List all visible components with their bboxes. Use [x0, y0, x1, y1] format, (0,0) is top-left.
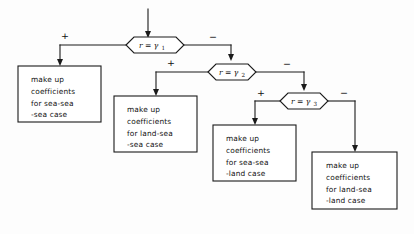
- decision-1-positive-edge: +: [57, 30, 126, 66]
- process-3-line-2: coefficients: [226, 146, 270, 155]
- decision-3-negative-edge: −: [328, 87, 358, 152]
- decision-2-positive-edge: +: [153, 57, 208, 96]
- flowchart-diagram: r = γ 1 + − r = γ 2 +: [0, 0, 414, 234]
- process-1-line-1: make up: [31, 75, 64, 84]
- process-1-line-3: for sea-sea: [31, 99, 74, 108]
- decision-3-positive-label: +: [257, 87, 265, 98]
- process-3-line-3: for sea-sea: [226, 158, 269, 167]
- process-4-line-3: for land-sea: [326, 185, 372, 194]
- decision-1-negative-edge: −: [184, 31, 234, 61]
- process-3-line-4: -land case: [226, 169, 266, 178]
- decision-1-label: r = γ: [139, 41, 159, 50]
- decision-3-positive-edge: +: [252, 87, 280, 125]
- decision-2-label: r = γ: [219, 68, 239, 77]
- process-box-1[interactable]: make up coefficients for sea-sea -sea ca…: [18, 66, 101, 122]
- decision-1-positive-label: +: [61, 30, 69, 41]
- decision-1-negative-label: −: [209, 31, 217, 42]
- entry-arrow: [145, 9, 151, 38]
- decision-2-positive-label: +: [167, 57, 175, 68]
- decision-3-label: r = γ: [291, 97, 311, 106]
- decision-node-2[interactable]: r = γ 2: [208, 64, 256, 80]
- process-2-line-3: for land-sea: [127, 129, 173, 138]
- decision-node-1[interactable]: r = γ 1: [126, 37, 184, 53]
- decision-1-subscript: 1: [162, 45, 166, 51]
- process-3-line-1: make up: [226, 134, 259, 143]
- process-4-line-2: coefficients: [326, 173, 370, 182]
- decision-node-3[interactable]: r = γ 3: [280, 93, 328, 109]
- process-4-line-4: -land case: [326, 196, 366, 205]
- process-1-line-4: -sea case: [31, 110, 68, 119]
- process-box-2[interactable]: make up coefficients for land-sea -sea c…: [114, 96, 197, 152]
- process-box-3[interactable]: make up coefficients for sea-sea -land c…: [213, 125, 296, 181]
- decision-2-negative-label: −: [283, 58, 291, 69]
- process-2-line-4: -sea case: [127, 140, 164, 149]
- process-1-line-2: coefficients: [31, 87, 75, 96]
- decision-3-subscript: 3: [314, 101, 318, 107]
- process-4-line-1: make up: [326, 161, 359, 170]
- process-2-line-1: make up: [127, 105, 160, 114]
- process-box-4[interactable]: make up coefficients for land-sea -land …: [312, 152, 397, 209]
- flowchart-canvas: r = γ 1 + − r = γ 2 +: [0, 0, 414, 234]
- process-2-line-2: coefficients: [127, 117, 171, 126]
- decision-2-subscript: 2: [242, 72, 246, 78]
- decision-3-negative-label: −: [340, 87, 348, 98]
